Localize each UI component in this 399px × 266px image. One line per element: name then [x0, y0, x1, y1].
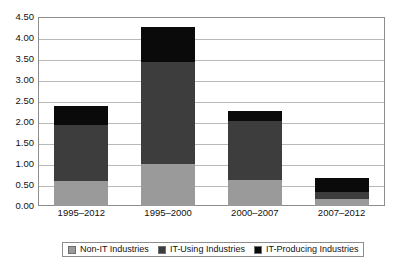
y-tick-label: 4.50	[16, 12, 35, 22]
bar-segment	[315, 178, 369, 191]
legend-item: Non-IT Industries	[68, 245, 149, 254]
stacked-bar-chart: 0.000.501.001.502.002.503.003.504.004.50…	[0, 0, 399, 266]
x-tick-label: 1995–2012	[58, 208, 106, 218]
legend-item: IT-Producing Industries	[254, 245, 359, 254]
y-axis: 0.000.501.001.502.002.503.003.504.004.50	[0, 17, 34, 206]
y-tick-label: 3.00	[16, 75, 35, 85]
bar-segment	[228, 111, 282, 121]
bar-group	[54, 17, 108, 206]
bar-segment	[141, 27, 195, 62]
bars-layer	[38, 17, 385, 206]
bar-segment	[54, 125, 108, 180]
x-tick-label: 1995–2000	[144, 208, 192, 218]
y-tick-label: 1.50	[16, 138, 35, 148]
x-tick-label: 2007–2012	[318, 208, 366, 218]
bar-segment	[141, 164, 195, 206]
bar-stack	[228, 111, 282, 206]
y-tick-label: 0.50	[16, 180, 35, 190]
x-tick-label: 2000–2007	[231, 208, 279, 218]
y-tick-label: 4.00	[16, 33, 35, 43]
y-tick-label: 2.00	[16, 117, 35, 127]
bar-segment	[54, 181, 108, 206]
y-tick-label: 0.00	[16, 201, 35, 211]
legend-swatch-icon	[254, 246, 262, 254]
bar-segment	[228, 121, 282, 180]
bar-stack	[54, 106, 108, 206]
bar-stack	[141, 27, 195, 206]
bar-group	[315, 17, 369, 206]
bar-group	[141, 17, 195, 206]
bar-group	[228, 17, 282, 206]
y-tick-label: 1.00	[16, 159, 35, 169]
bar-segment	[54, 106, 108, 126]
bar-stack	[315, 178, 369, 206]
bar-segment	[141, 62, 195, 164]
y-tick-label: 3.50	[16, 54, 35, 64]
bar-segment	[315, 199, 369, 206]
y-tick-label: 2.50	[16, 96, 35, 106]
bar-segment	[315, 192, 369, 199]
legend-label: IT-Using Industries	[170, 245, 245, 254]
legend-swatch-icon	[158, 246, 166, 254]
bar-segment	[228, 180, 282, 206]
chart-legend: Non-IT IndustriesIT-Using IndustriesIT-P…	[62, 242, 364, 257]
legend-swatch-icon	[68, 246, 76, 254]
legend-label: IT-Producing Industries	[266, 245, 359, 254]
x-axis: 1995–20121995–20002000–20072007–2012	[38, 208, 385, 224]
legend-item: IT-Using Industries	[158, 245, 245, 254]
legend-label: Non-IT Industries	[80, 245, 149, 254]
